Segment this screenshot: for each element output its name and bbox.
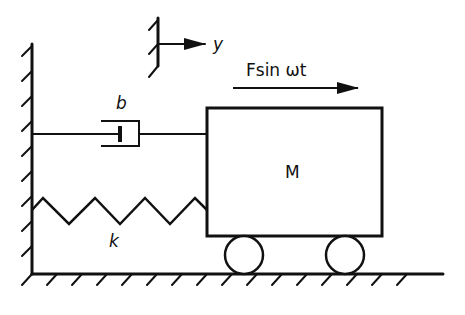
damper: [32, 121, 207, 146]
mass-label: M: [285, 162, 300, 182]
displacement-label: y: [212, 34, 224, 54]
wheel-left: [225, 236, 263, 274]
reference-frame: [149, 18, 205, 77]
wheel-right: [326, 236, 364, 274]
ground: [22, 274, 443, 285]
force-label: Fsin ωt: [246, 60, 307, 80]
fixed-wall: [22, 44, 32, 274]
spring-label: k: [109, 231, 120, 251]
damper-label: b: [116, 93, 127, 113]
spring: [32, 198, 207, 224]
mass-spring-damper-diagram: b k M Fsin ωt y: [0, 0, 465, 315]
